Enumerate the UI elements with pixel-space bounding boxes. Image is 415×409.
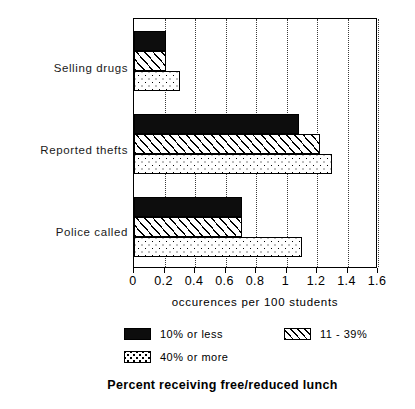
bar-1-2: [134, 154, 332, 174]
bar-1-1: [134, 134, 320, 154]
bar-chart-figure: Selling drugs Reported thefts Police cal…: [0, 0, 415, 409]
x-tick-mark: [286, 268, 287, 273]
x-tick-mark: [316, 268, 317, 273]
legend-label: 10% or less: [160, 328, 223, 340]
bar-2-0: [134, 197, 242, 217]
x-tick-label: 1.4: [337, 274, 356, 288]
plot-area: [133, 18, 377, 268]
category-label-police-called: Police called: [56, 226, 128, 238]
x-tick-mark: [194, 268, 195, 273]
bar-0-2: [134, 71, 180, 91]
x-tick-label: 1.6: [368, 274, 387, 288]
x-tick-label: 1.2: [307, 274, 326, 288]
x-tick-label: 0.2: [154, 274, 173, 288]
category-label-selling-drugs: Selling drugs: [54, 62, 128, 74]
chart-legend: 10% or less 11 - 39% 40% or more: [124, 328, 404, 376]
x-tick-label: 0.6: [215, 274, 234, 288]
bar-2-2: [134, 237, 302, 257]
bar-2-1: [134, 217, 242, 237]
legend-label: 40% or more: [160, 351, 228, 363]
legend-item-10-or-less: 10% or less: [124, 328, 223, 340]
gridline: [378, 19, 379, 267]
x-tick-mark: [347, 268, 348, 273]
bar-0-0: [134, 31, 166, 51]
plot-inner: [134, 19, 376, 267]
bar-0-1: [134, 51, 166, 71]
legend-label: 11 - 39%: [320, 328, 367, 340]
legend-swatch-dots-icon: [124, 351, 151, 363]
legend-item-11-39: 11 - 39%: [284, 328, 367, 340]
gridline: [348, 19, 349, 267]
category-axis: Selling drugs Reported thefts Police cal…: [6, 18, 128, 268]
x-tick-label: 1: [282, 274, 289, 288]
x-tick-label: 0.8: [246, 274, 265, 288]
x-tick-mark: [133, 268, 134, 273]
x-tick-mark: [377, 268, 378, 273]
x-tick-label: 0.4: [185, 274, 204, 288]
x-tick-mark: [225, 268, 226, 273]
x-tick-mark: [255, 268, 256, 273]
category-label-reported-thefts: Reported thefts: [40, 144, 128, 156]
legend-item-40-or-more: 40% or more: [124, 351, 228, 363]
x-axis-tick-labels: 0 0.2 0.4 0.6 0.8 1 1.2 1.4 1.6: [133, 274, 377, 292]
legend-swatch-solid-icon: [124, 328, 151, 340]
x-tick-mark: [164, 268, 165, 273]
chart-caption: Percent receiving free/reduced lunch: [0, 378, 415, 392]
bar-1-0: [134, 114, 299, 134]
x-axis-title: occurences per 100 students: [133, 296, 377, 308]
legend-swatch-hatch-icon: [284, 328, 311, 340]
x-tick-label: 0: [129, 274, 136, 288]
